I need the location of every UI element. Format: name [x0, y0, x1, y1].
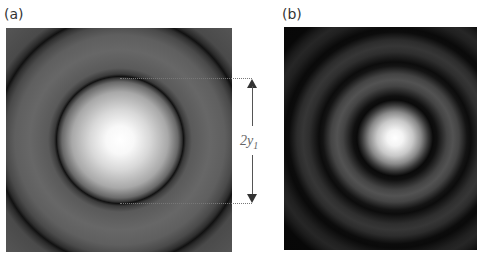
dimension-subscript: 1	[253, 140, 258, 151]
panel-a-image	[6, 28, 232, 252]
arrow-shaft-top	[252, 86, 253, 126]
panel-b-label: (b)	[282, 6, 302, 22]
arrow-shaft-bottom	[252, 155, 253, 195]
panel-a-label: (a)	[4, 6, 24, 22]
arrowhead-down-icon	[247, 194, 257, 203]
dimension-label: 2y1	[240, 133, 258, 151]
bottom-dimension-line	[120, 203, 252, 204]
panel-b-image	[284, 27, 477, 250]
top-dimension-line	[120, 78, 252, 79]
